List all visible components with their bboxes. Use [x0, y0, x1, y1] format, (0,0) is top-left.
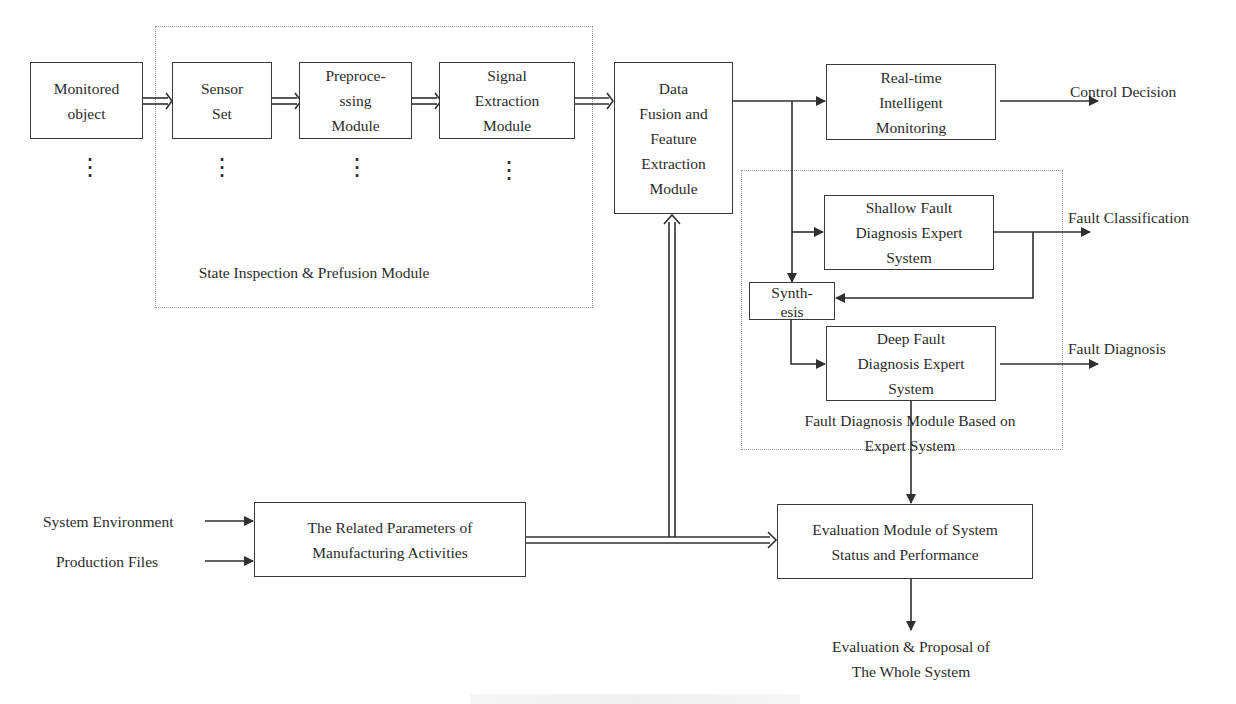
related-parameters-label: The Related Parameters of Manufacturing …	[308, 515, 473, 565]
double-arrow-parameters-to-evaluation	[525, 532, 776, 548]
preprocessing-module-box: Preproce- ssing Module	[299, 62, 412, 139]
production-files-label: Production Files	[56, 549, 158, 574]
figure-caption-illegible	[470, 694, 800, 704]
evaluation-proposal-label: Evaluation & Proposal of The Whole Syste…	[781, 634, 1041, 684]
ellipsis-icon: ⋮	[345, 155, 369, 180]
fault-diagnosis-output-label: Fault Diagnosis	[1068, 336, 1166, 361]
related-parameters-box: The Related Parameters of Manufacturing …	[254, 502, 526, 577]
synthesis-label: Synth- esis	[771, 283, 812, 321]
signal-extraction-label: Signal Extraction Module	[475, 63, 540, 138]
double-arrow-preprocessing-to-signal	[412, 93, 441, 109]
data-fusion-label: Data Fusion and Feature Extraction Modul…	[639, 76, 707, 201]
data-fusion-module-box: Data Fusion and Feature Extraction Modul…	[614, 62, 733, 214]
double-arrow-signal-to-fusion	[575, 93, 613, 109]
realtime-monitoring-box: Real-time Intelligent Monitoring	[826, 64, 996, 140]
evaluation-module-box: Evaluation Module of System Status and P…	[777, 504, 1033, 579]
fault-classification-label: Fault Classification	[1068, 205, 1189, 230]
realtime-monitoring-label: Real-time Intelligent Monitoring	[876, 65, 947, 140]
system-environment-label: System Environment	[43, 509, 173, 534]
control-decision-label: Control Decision	[1070, 79, 1176, 104]
sensor-set-box: Sensor Set	[172, 62, 272, 139]
double-arrow-sensor-to-preprocessing	[272, 93, 301, 109]
synthesis-box: Synth- esis	[749, 282, 835, 320]
double-arrow-parameters-to-fusion	[664, 215, 680, 537]
signal-extraction-module-box: Signal Extraction Module	[439, 62, 575, 139]
double-arrow-monitored-to-sensor	[143, 93, 172, 109]
ellipsis-icon: ⋮	[497, 158, 521, 183]
ellipsis-icon: ⋮	[78, 155, 102, 180]
shallow-fault-label: Shallow Fault Diagnosis Expert System	[855, 195, 962, 270]
preprocessing-label: Preproce- ssing Module	[325, 63, 385, 138]
monitored-object-label: Monitored object	[54, 76, 119, 126]
sensor-set-label: Sensor Set	[201, 76, 243, 126]
arrow-synthesis-to-deep	[791, 318, 825, 364]
evaluation-module-label: Evaluation Module of System Status and P…	[812, 517, 998, 567]
fault-diagnosis-group-label: Fault Diagnosis Module Based on Expert S…	[760, 408, 1060, 458]
deep-fault-label: Deep Fault Diagnosis Expert System	[857, 326, 964, 401]
monitored-object-box: Monitored object	[30, 62, 143, 139]
deep-fault-diagnosis-box: Deep Fault Diagnosis Expert System	[826, 326, 996, 401]
shallow-fault-diagnosis-box: Shallow Fault Diagnosis Expert System	[824, 195, 994, 270]
ellipsis-icon: ⋮	[210, 155, 234, 180]
